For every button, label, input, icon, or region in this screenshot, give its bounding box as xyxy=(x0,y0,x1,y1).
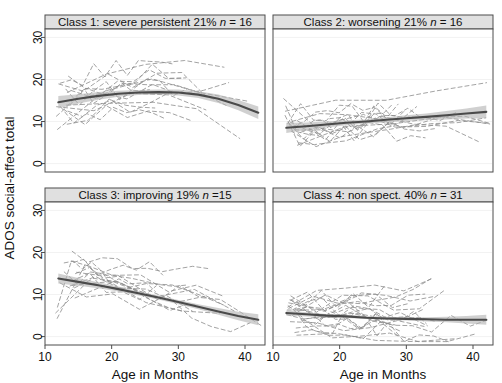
xtick-label-40: 40 xyxy=(466,350,480,364)
xtick-label-20: 20 xyxy=(333,350,347,364)
ytick-label-20: 20 xyxy=(31,245,45,259)
panel-class1: Class 1: severe persistent 21% n = 16010… xyxy=(31,15,265,172)
xtick-label-10: 10 xyxy=(266,350,280,364)
panel-class2: Class 2: worsening 21% n = 16 xyxy=(273,15,493,172)
ytick-label-0: 0 xyxy=(31,333,45,340)
figure-root: Class 1: severe persistent 21% n = 16010… xyxy=(0,0,502,383)
ytick-label-10: 10 xyxy=(31,288,45,302)
ytick-label-10: 10 xyxy=(31,115,45,129)
panel-strip-label-class4: Class 4: non spect. 40% n = 31 xyxy=(303,189,463,201)
y-axis-title: ADOS social-affect total xyxy=(2,116,17,259)
x-axis-title: Age in Months xyxy=(340,367,427,382)
xtick-label-20: 20 xyxy=(105,350,119,364)
panel-class3: Class 3: improving 19% n =15010203010203… xyxy=(31,188,265,382)
panel-strip-label-class1: Class 1: severe persistent 21% n = 16 xyxy=(58,16,252,28)
xtick-label-10: 10 xyxy=(38,350,52,364)
xtick-label-40: 40 xyxy=(238,350,252,364)
panel-strip-label-class3: Class 3: improving 19% n =15 xyxy=(78,189,231,201)
xtick-label-30: 30 xyxy=(400,350,414,364)
x-axis-title: Age in Months xyxy=(112,367,199,382)
panel-frame-class3 xyxy=(45,202,265,345)
ytick-label-30: 30 xyxy=(31,203,45,217)
ytick-label-0: 0 xyxy=(31,160,45,167)
panel-frame-class4 xyxy=(273,202,493,345)
panel-class4: Class 4: non spect. 40% n = 3110203040Ag… xyxy=(266,188,493,382)
ados-trajectory-facet-chart: Class 1: severe persistent 21% n = 16010… xyxy=(0,0,502,383)
panel-strip-label-class2: Class 2: worsening 21% n = 16 xyxy=(304,16,463,28)
ytick-label-30: 30 xyxy=(31,30,45,44)
xtick-label-30: 30 xyxy=(172,350,186,364)
ytick-label-20: 20 xyxy=(31,72,45,86)
